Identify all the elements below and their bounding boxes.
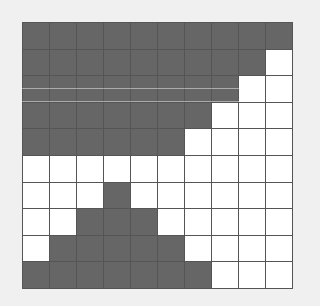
grid-cell[interactable]	[185, 209, 211, 235]
grid-cell[interactable]	[212, 183, 238, 209]
grid-cell[interactable]	[131, 129, 157, 155]
grid-cell[interactable]	[185, 129, 211, 155]
grid-cell[interactable]	[212, 50, 238, 76]
grid-cell[interactable]	[50, 103, 76, 129]
grid-cell[interactable]	[104, 236, 130, 262]
grid-cell[interactable]	[185, 183, 211, 209]
grid-cell[interactable]	[77, 103, 103, 129]
grid-cell[interactable]	[239, 103, 265, 129]
grid-cell[interactable]	[104, 103, 130, 129]
grid-cell[interactable]	[266, 103, 292, 129]
grid-cell[interactable]	[77, 23, 103, 49]
game-board	[22, 22, 293, 289]
grid-cell[interactable]	[185, 23, 211, 49]
grid-cell[interactable]	[158, 50, 184, 76]
grid-cell[interactable]	[77, 209, 103, 235]
glare-line	[22, 101, 240, 102]
grid-cell[interactable]	[23, 23, 49, 49]
grid-cell[interactable]	[239, 129, 265, 155]
grid-cell[interactable]	[239, 183, 265, 209]
grid-cell[interactable]	[239, 262, 265, 288]
grid-cell[interactable]	[23, 262, 49, 288]
grid-cell[interactable]	[239, 236, 265, 262]
grid-cell[interactable]	[104, 156, 130, 182]
grid-cell[interactable]	[266, 183, 292, 209]
grid-cell[interactable]	[104, 183, 130, 209]
grid-cell[interactable]	[212, 236, 238, 262]
grid-cell[interactable]	[77, 262, 103, 288]
grid-cell[interactable]	[77, 183, 103, 209]
grid-cell[interactable]	[239, 76, 265, 102]
grid-cell[interactable]	[266, 76, 292, 102]
grid-cell[interactable]	[239, 23, 265, 49]
grid-cell[interactable]	[212, 129, 238, 155]
grid-cell[interactable]	[131, 262, 157, 288]
grid-cell[interactable]	[23, 236, 49, 262]
grid-cell[interactable]	[131, 103, 157, 129]
grid-cell[interactable]	[131, 23, 157, 49]
grid-cell[interactable]	[104, 50, 130, 76]
grid-cell[interactable]	[50, 236, 76, 262]
grid-cell[interactable]	[77, 129, 103, 155]
grid-cell[interactable]	[104, 23, 130, 49]
grid-cell[interactable]	[23, 183, 49, 209]
grid-cell[interactable]	[212, 156, 238, 182]
grid-cell[interactable]	[266, 156, 292, 182]
grid-cell[interactable]	[158, 23, 184, 49]
grid-cell[interactable]	[104, 129, 130, 155]
grid-cell[interactable]	[23, 129, 49, 155]
grid-cell[interactable]	[104, 262, 130, 288]
grid-cell[interactable]	[185, 156, 211, 182]
grid-cell[interactable]	[266, 236, 292, 262]
grid-cell[interactable]	[212, 262, 238, 288]
grid-cell[interactable]	[158, 103, 184, 129]
grid-cell[interactable]	[185, 103, 211, 129]
grid-cell[interactable]	[23, 209, 49, 235]
grid-cell[interactable]	[50, 23, 76, 49]
grid-cell[interactable]	[185, 262, 211, 288]
grid-cell[interactable]	[77, 236, 103, 262]
grid-cell[interactable]	[77, 156, 103, 182]
grid-cell[interactable]	[131, 236, 157, 262]
grid-cell[interactable]	[212, 209, 238, 235]
grid-cell[interactable]	[185, 50, 211, 76]
grid-cell[interactable]	[158, 236, 184, 262]
grid-cell[interactable]	[131, 183, 157, 209]
grid-cell[interactable]	[23, 156, 49, 182]
grid-cell[interactable]	[158, 209, 184, 235]
grid-cell[interactable]	[50, 156, 76, 182]
grid-cell[interactable]	[239, 209, 265, 235]
grid-cell[interactable]	[266, 209, 292, 235]
grid-cell[interactable]	[158, 129, 184, 155]
grid-cell[interactable]	[50, 183, 76, 209]
grid-cell[interactable]	[131, 156, 157, 182]
grid-cell[interactable]	[266, 262, 292, 288]
grid-cell[interactable]	[239, 50, 265, 76]
grid-cell[interactable]	[23, 103, 49, 129]
grid-cell[interactable]	[50, 209, 76, 235]
grid-cell[interactable]	[266, 50, 292, 76]
grid-cell[interactable]	[266, 129, 292, 155]
grid-cell[interactable]	[185, 236, 211, 262]
grid-cell[interactable]	[23, 50, 49, 76]
grid-cell[interactable]	[212, 23, 238, 49]
grid-cell[interactable]	[158, 156, 184, 182]
grid-cell[interactable]	[50, 129, 76, 155]
grid-cell[interactable]	[131, 50, 157, 76]
grid-cell[interactable]	[212, 103, 238, 129]
grid-cell[interactable]	[266, 23, 292, 49]
grid-cell[interactable]	[158, 262, 184, 288]
grid-cell[interactable]	[131, 209, 157, 235]
grid-cell[interactable]	[104, 209, 130, 235]
grid-cell[interactable]	[50, 50, 76, 76]
grid-cell[interactable]	[239, 156, 265, 182]
grid-cell[interactable]	[50, 262, 76, 288]
grid-cell[interactable]	[158, 183, 184, 209]
glare-line	[22, 88, 240, 89]
grid-cell[interactable]	[77, 50, 103, 76]
